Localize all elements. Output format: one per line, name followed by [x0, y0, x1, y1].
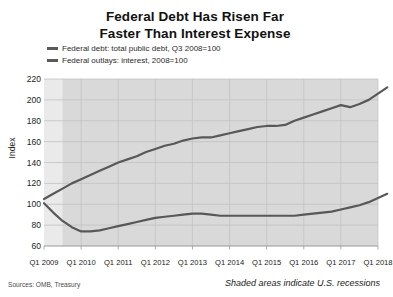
sources-note: Sources: OMB, Treasury [8, 281, 80, 288]
x-axis-tick-label: Q1 2009 [29, 258, 58, 267]
x-axis-tick-label: Q1 2018 [363, 258, 392, 267]
x-axis-tick-label: Q1 2013 [178, 258, 207, 267]
x-axis-tick-labels: Q1 2009Q1 2010Q1 2011Q1 2012Q1 2013Q1 20… [0, 258, 390, 272]
x-axis-tick-label: Q1 2016 [289, 258, 318, 267]
x-axis-tick-label: Q1 2012 [141, 258, 170, 267]
x-axis-tick-label: Q1 2015 [252, 258, 281, 267]
x-axis-tick-label: Q1 2014 [215, 258, 244, 267]
x-axis-tick-label: Q1 2017 [326, 258, 355, 267]
recession-note: Shaded areas indicate U.S. recessions [225, 278, 380, 288]
axis-ticks [44, 246, 378, 250]
x-axis-tick-label: Q1 2011 [104, 258, 133, 267]
x-axis-tick-label: Q1 2010 [67, 258, 96, 267]
